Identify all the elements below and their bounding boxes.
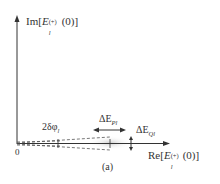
- delta-q-sub: Ql: [149, 130, 156, 137]
- imaginary-axis-arrowhead: [15, 15, 20, 22]
- label-part: Re[: [148, 149, 164, 161]
- origin-label: 0: [15, 148, 20, 157]
- label-symbol: E: [164, 149, 171, 161]
- delta-p-sub: Pl: [112, 119, 118, 126]
- phase-width-text: 2δφ: [42, 121, 57, 132]
- delta-p-text: ΔE: [99, 113, 112, 124]
- delta-q-text: ΔE: [136, 124, 149, 135]
- delta-q-arrowhead-bottom: [129, 147, 133, 151]
- real-axis-arrowhead: [163, 141, 170, 146]
- label-sup: (+): [49, 19, 57, 26]
- label-symbol: E: [42, 15, 49, 27]
- label-part: Im[: [26, 15, 42, 27]
- panel-label: (a): [102, 162, 113, 172]
- label-sub: l: [171, 164, 173, 171]
- imaginary-axis-label: Im[E(+)l(0)]: [26, 16, 78, 27]
- cone-inner-dashed-2: [17, 145, 60, 146]
- delta-p-arrowhead-left: [93, 128, 99, 133]
- label-part: (0)]: [62, 15, 79, 27]
- delta-p-label: ΔEPl: [99, 114, 117, 127]
- delta-q-arrowhead-top: [129, 136, 133, 140]
- label-sup: (+): [171, 153, 179, 160]
- label-sub: l: [49, 30, 51, 37]
- cone-inner-dashed: [17, 141, 60, 142]
- label-part: (0)]: [183, 149, 200, 161]
- real-axis-label: Re[E(+)l(0)]: [148, 150, 199, 161]
- phase-width-label: 2δφl: [42, 122, 59, 135]
- delta-q-label: ΔEQl: [136, 125, 155, 138]
- phase-width-sub: l: [57, 127, 59, 134]
- delta-p-arrowhead-right: [120, 128, 126, 133]
